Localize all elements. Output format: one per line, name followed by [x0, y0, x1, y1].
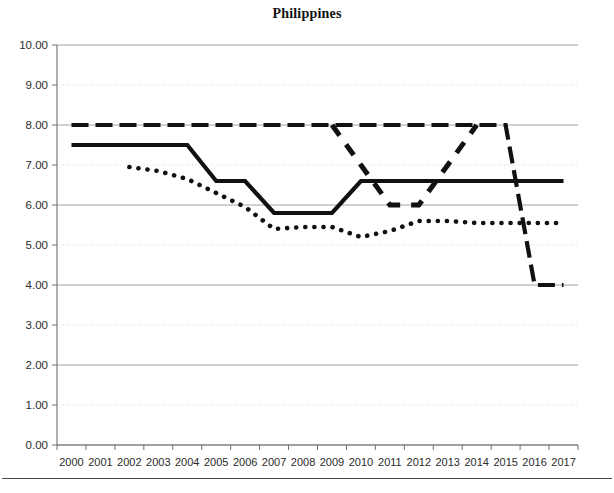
- y-axis-tick-label: 4.00: [26, 279, 48, 291]
- series-line-series-dashed-dip: [332, 125, 477, 205]
- x-axis-tick-label: 2017: [551, 456, 575, 468]
- x-axis-tick-label: 2000: [59, 456, 83, 468]
- gridlines-group: [57, 45, 578, 445]
- x-axis-tick-label: 2013: [436, 456, 460, 468]
- x-axis-tick-label: 2002: [117, 456, 141, 468]
- y-axis-tick-label: 3.00: [26, 319, 48, 331]
- x-axis-ticks-group: [57, 445, 578, 450]
- y-axis-ticks-group: [52, 45, 57, 445]
- x-axis-tick-label: 2016: [522, 456, 546, 468]
- x-axis-tick-label: 2003: [146, 456, 170, 468]
- x-axis-tick-label: 2014: [464, 456, 488, 468]
- x-axis-tick-label: 2010: [349, 456, 373, 468]
- y-axis-tick-label: 6.00: [26, 199, 48, 211]
- y-axis-tick-label: 9.00: [26, 79, 48, 91]
- y-axis-tick-label: 0.00: [26, 439, 48, 451]
- y-axis-tick-label: 10.00: [19, 39, 48, 51]
- y-axis-tick-label: 5.00: [26, 239, 48, 251]
- x-axis-tick-label: 2015: [493, 456, 517, 468]
- x-axis-tick-label: 2009: [320, 456, 344, 468]
- chart-container: Philippines 10.009.008.007.006.005.004.0…: [0, 0, 614, 493]
- y-axis-tick-label: 1.00: [26, 399, 48, 411]
- x-axis-tick-label: 2005: [204, 456, 228, 468]
- x-axis-tick-label: 2004: [175, 456, 199, 468]
- x-axis-tick-label: 2001: [88, 456, 112, 468]
- page-bottom-rule: [2, 478, 612, 479]
- y-axis-labels-group: 10.009.008.007.006.005.004.003.002.001.0…: [19, 39, 48, 451]
- x-axis-tick-label: 2011: [378, 456, 402, 468]
- x-axis-tick-label: 2006: [233, 456, 257, 468]
- x-axis-tick-label: 2012: [407, 456, 431, 468]
- y-axis-tick-label: 2.00: [26, 359, 48, 371]
- x-axis-tick-label: 2008: [291, 456, 315, 468]
- y-axis-tick-label: 8.00: [26, 119, 48, 131]
- x-axis-tick-label: 2007: [262, 456, 286, 468]
- chart-plot-area: 10.009.008.007.006.005.004.003.002.001.0…: [0, 0, 614, 493]
- y-axis-tick-label: 7.00: [26, 159, 48, 171]
- series-line-series-solid: [72, 145, 564, 213]
- series-line-series-dotted: [129, 167, 563, 237]
- x-axis-labels-group: 2000200120022003200420052006200720082009…: [59, 456, 576, 468]
